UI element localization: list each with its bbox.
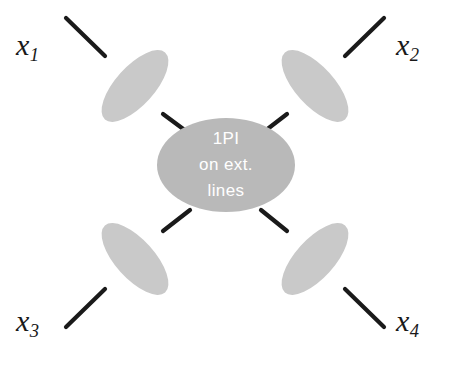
- central-blob-line-2: on ext.: [199, 155, 253, 174]
- diagram-canvas: 1PI on ext. lines x1 x2 x3 x4: [0, 0, 450, 370]
- label-x3-subscript: 3: [30, 320, 39, 341]
- external-line-x4: [345, 289, 384, 327]
- external-line-x3: [66, 289, 105, 327]
- label-x2-symbol: x: [396, 28, 409, 61]
- label-x4: x4: [396, 306, 419, 336]
- internal-line-x4: [261, 210, 287, 231]
- label-x1: x1: [16, 30, 39, 60]
- label-x2-subscript: 2: [410, 44, 419, 65]
- central-blob-line-1: 1PI: [213, 129, 240, 148]
- internal-line-x3: [163, 210, 190, 231]
- label-x2: x2: [396, 30, 419, 60]
- external-line-x2: [345, 18, 384, 56]
- label-x1-subscript: 1: [30, 44, 39, 65]
- label-x3-symbol: x: [16, 304, 29, 337]
- label-x3: x3: [16, 306, 39, 336]
- label-x4-symbol: x: [396, 304, 409, 337]
- label-x1-symbol: x: [16, 28, 29, 61]
- label-x4-subscript: 4: [410, 320, 419, 341]
- feynman-diagram: 1PI on ext. lines: [0, 0, 450, 370]
- external-line-x1: [66, 18, 105, 56]
- central-blob-line-3: lines: [208, 181, 245, 200]
